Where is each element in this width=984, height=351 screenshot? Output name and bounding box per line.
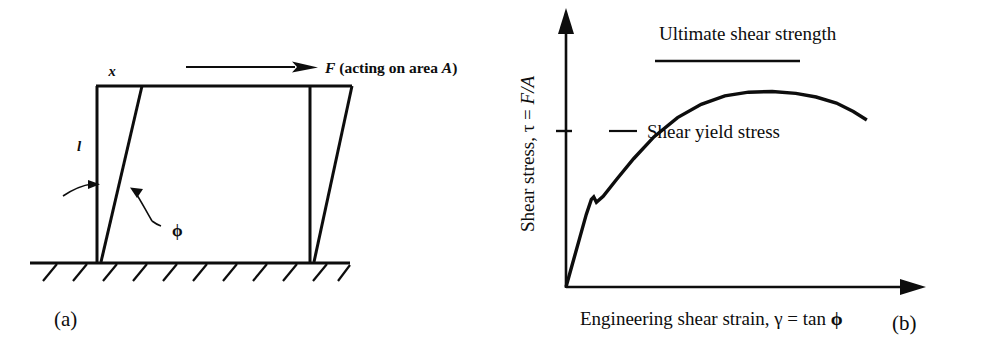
x-axis-label: Engineering shear strain, γ = tan ϕ: [580, 308, 843, 329]
x-axis-label-prefix: Engineering shear strain,: [580, 308, 774, 329]
force-close-paren: ): [452, 59, 457, 77]
panel-a-shear-deformation-diagram: F (acting on area A) x l: [0, 0, 492, 351]
angle-pointer-right-icon: [130, 188, 152, 222]
length-label-l: l: [77, 138, 82, 154]
displacement-label-x: x: [107, 63, 115, 79]
y-axis-label: Shear stress, τ = F/A: [517, 76, 538, 232]
force-arrow-icon: [186, 62, 318, 73]
x-axis-symbol-gamma: γ: [773, 308, 782, 329]
sheared-block-outline: [101, 86, 352, 262]
angle-pointer-left-icon: [63, 180, 100, 196]
y-axis-label-prefix: Shear stress,: [517, 132, 538, 232]
panel-b-svg: Shear yield stress Ultimate shear streng…: [492, 0, 984, 351]
panel-a-caption: (a): [54, 307, 77, 331]
x-axis-value-phi: ϕ: [831, 308, 843, 329]
force-area-symbol: A: [441, 59, 452, 76]
y-axis-equals: =: [517, 104, 538, 124]
x-axis: [566, 279, 926, 295]
annotation-ultimate-shear-strength: Ultimate shear strength: [659, 23, 837, 44]
panel-a-svg: F (acting on area A) x l: [0, 0, 492, 351]
figure-root: F (acting on area A) x l: [0, 0, 984, 351]
force-label: F (acting on area A): [324, 59, 457, 77]
panel-b-caption: (b): [892, 311, 917, 335]
y-axis: [558, 8, 574, 288]
angle-label-phi: ϕ: [172, 221, 183, 240]
y-axis-value: F/A: [517, 76, 538, 106]
force-symbol: F: [324, 59, 336, 76]
x-axis-equals-tan: = tan: [783, 308, 831, 329]
panel-b-stress-strain-chart: Shear yield stress Ultimate shear streng…: [492, 0, 984, 351]
force-note: (acting on area: [335, 59, 441, 77]
fixed-ground-hatching-icon: [30, 263, 350, 281]
